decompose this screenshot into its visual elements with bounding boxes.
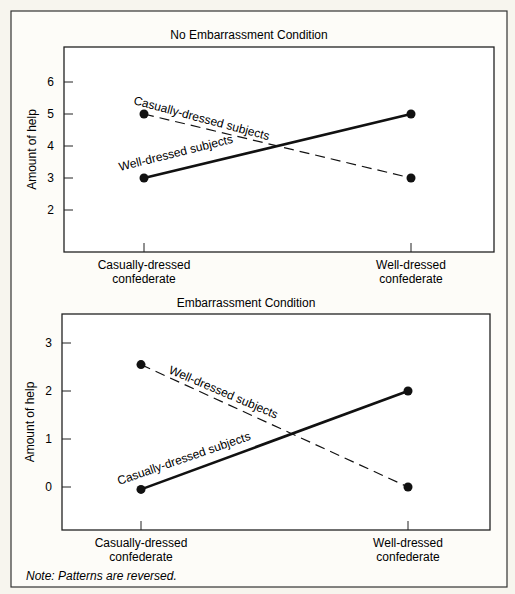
chart-no-embarrassment: No Embarrassment Condition23456Amount of… xyxy=(25,28,494,286)
y-tick-label: 5 xyxy=(47,107,54,121)
data-point xyxy=(407,110,416,119)
x-category-label: confederate xyxy=(376,550,440,564)
x-category-label: Casually-dressed xyxy=(98,258,191,272)
x-category-label: Well-dressed xyxy=(373,536,443,550)
y-tick-label: 2 xyxy=(45,384,52,398)
y-tick-label: 1 xyxy=(45,432,52,446)
y-tick-label: 2 xyxy=(47,203,54,217)
data-point xyxy=(404,483,413,492)
note-text: Note: Patterns are reversed. xyxy=(26,569,177,583)
chart-title: No Embarrassment Condition xyxy=(170,28,327,42)
chart-title: Embarrassment Condition xyxy=(177,296,316,310)
x-category-label: confederate xyxy=(379,272,443,286)
data-point xyxy=(407,174,416,183)
x-category-label: Well-dressed xyxy=(376,258,446,272)
y-axis-label: Amount of help xyxy=(25,109,39,190)
chart-embarrassment: Embarrassment Condition0123Amount of hel… xyxy=(23,296,490,564)
data-point xyxy=(140,174,149,183)
y-tick-label: 0 xyxy=(45,480,52,494)
y-tick-label: 6 xyxy=(47,75,54,89)
x-category-label: confederate xyxy=(109,550,173,564)
plot-area xyxy=(64,47,494,252)
y-tick-label: 3 xyxy=(47,171,54,185)
data-point xyxy=(137,485,146,494)
y-axis-label: Amount of help xyxy=(23,381,37,462)
y-tick-label: 4 xyxy=(47,139,54,153)
y-tick-label: 3 xyxy=(45,336,52,350)
data-point xyxy=(404,387,413,396)
x-category-label: confederate xyxy=(112,272,176,286)
figure: No Embarrassment Condition23456Amount of… xyxy=(0,0,515,594)
plot-area xyxy=(62,314,490,530)
data-point xyxy=(137,360,146,369)
x-category-label: Casually-dressed xyxy=(95,536,188,550)
